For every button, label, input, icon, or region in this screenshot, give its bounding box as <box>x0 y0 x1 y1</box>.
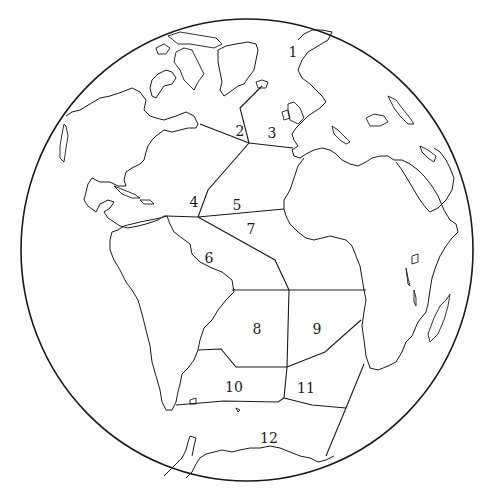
region-label-1: 1 <box>289 45 298 59</box>
region-label-2: 2 <box>236 124 245 138</box>
arctic-island-2 <box>156 44 170 54</box>
boundary-junction-iberia <box>249 143 293 148</box>
lake-victoria <box>412 254 418 264</box>
region-label-8: 8 <box>253 322 262 336</box>
british-isles <box>288 102 304 124</box>
lake-malawi <box>414 290 416 306</box>
south-georgia <box>236 408 240 412</box>
iceland <box>256 80 268 88</box>
italy <box>332 126 350 144</box>
region-boundaries <box>167 86 366 456</box>
greenland <box>218 42 258 96</box>
europe-coast <box>292 30 394 166</box>
canada-arctic <box>150 70 176 98</box>
baffin-island <box>174 48 204 90</box>
madagascar <box>428 294 450 342</box>
black-sea <box>366 114 388 126</box>
boundary-8-9 <box>284 290 289 398</box>
region-label-7: 7 <box>247 222 256 236</box>
region-label-9: 9 <box>313 322 322 336</box>
boundary-11-12 <box>284 398 346 408</box>
region-label-12: 12 <box>260 431 278 445</box>
caspian-sea <box>388 96 414 124</box>
atlantic-globe-map <box>0 0 486 495</box>
north-america-coast <box>66 88 198 228</box>
boundary-9-11 <box>287 320 361 367</box>
region-label-4: 4 <box>190 195 199 209</box>
region-label-3: 3 <box>268 126 277 140</box>
ireland <box>282 110 290 120</box>
cuba <box>114 186 140 198</box>
baja-california <box>60 124 68 162</box>
persian-gulf <box>420 146 436 162</box>
region-label-10: 10 <box>225 380 243 394</box>
lake-tanganyika <box>406 268 410 286</box>
globe-outline <box>21 19 473 481</box>
boundary-africa-south <box>326 364 364 456</box>
red-sea-arabia <box>396 148 454 212</box>
arctic-islands <box>168 32 222 48</box>
region-label-6: 6 <box>205 251 214 265</box>
boundary-caribbean-junction <box>167 216 198 217</box>
region-label-5: 5 <box>233 198 242 212</box>
africa-coast <box>284 158 458 370</box>
hispaniola <box>140 200 154 204</box>
south-america-coast <box>110 216 234 410</box>
boundary-8-10 <box>198 349 287 367</box>
coastlines <box>60 30 458 478</box>
antarctica-coast <box>186 446 334 478</box>
region-label-11: 11 <box>297 381 315 395</box>
